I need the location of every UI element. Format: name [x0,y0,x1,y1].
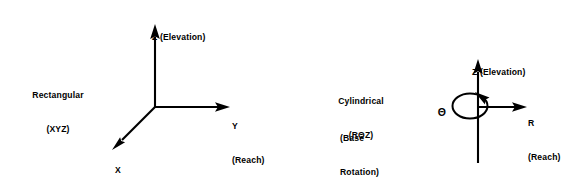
r-axis-label-cylindrical: R (Reach) [528,95,576,186]
theta-function-label: (Base Rotation) [340,110,416,192]
cylindrical-system-name: Cylindrical [312,96,410,107]
coordinate-systems-figure: Rectangular (XYZ) Z (Elevation) Y (Reach… [0,0,576,192]
x-axis-label-rectangular: X (Base Travel) [62,142,174,192]
theta-function-line1: (Base [340,133,416,144]
y-axis-function: (Reach) [232,155,296,166]
x-axis-symbol: X [62,165,174,176]
y-axis-label-rectangular: Y (Reach) [232,98,296,189]
theta-symbol: Θ [434,107,450,118]
z-axis-label-rectangular: Z (Elevation) [152,9,262,66]
theta-symbol-label: Θ [434,84,450,141]
rectangular-system-abbrev: (XYZ) [6,124,110,135]
rectangular-system-name: Rectangular [6,90,110,101]
x-axis-line-rectangular [122,107,155,140]
r-axis-function: (Reach) [528,152,576,163]
z-axis-label-text-rectangular: Z (Elevation) [152,32,262,43]
z-axis-label-cylindrical: Z (Elevation) [472,44,576,101]
y-axis-symbol: Y [232,121,296,132]
theta-function-line2: Rotation) [340,167,416,178]
r-axis-symbol: R [528,118,576,129]
z-axis-label-text-cylindrical: Z (Elevation) [472,67,576,78]
